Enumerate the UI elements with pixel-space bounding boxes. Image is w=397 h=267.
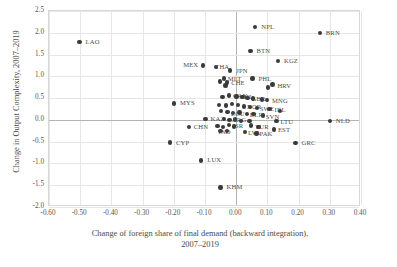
data-point [224, 103, 228, 107]
data-point-label: CYP [176, 139, 189, 146]
data-point-label: BTN [257, 47, 271, 54]
data-point-label: PAK [259, 130, 272, 137]
data-point [236, 103, 240, 107]
y-axis-zero-line [236, 11, 237, 205]
x-axis-title: Change of foreign share of final demand … [40, 228, 360, 250]
data-point [242, 104, 246, 108]
data-point-label: HRV [277, 82, 291, 89]
data-point-label: BRN [326, 29, 340, 36]
data-point [237, 110, 241, 114]
plot-area: LAONPLBRNBTNKGZMEXTHAJPNMLTPHLCHEHRVCANC… [48, 10, 360, 206]
data-point [265, 98, 269, 102]
gridline-horizontal [49, 98, 359, 99]
scatter-plot-figure: Change in Output Complexity, 2007–2019 2… [0, 0, 397, 267]
gridline-horizontal [49, 55, 359, 56]
data-point [267, 107, 271, 111]
data-point [248, 105, 252, 109]
x-tick-label: -0.10 [187, 209, 221, 217]
gridline-vertical [143, 11, 144, 205]
gridline-horizontal [49, 163, 359, 164]
gridline-horizontal [49, 207, 359, 208]
y-tick-label: 0.0 [18, 115, 44, 123]
y-tick-label: 1.0 [18, 71, 44, 79]
data-point [328, 119, 332, 123]
x-tick-label: -0.60 [31, 209, 65, 217]
data-point [245, 112, 249, 116]
data-point [249, 123, 253, 127]
y-tick-label: 0.5 [18, 93, 44, 101]
data-point [227, 93, 231, 97]
gridline-vertical [330, 11, 331, 205]
y-tick-label: 1.5 [18, 50, 44, 58]
data-point [261, 113, 265, 117]
data-point [274, 119, 278, 123]
data-point-label: EST [278, 126, 290, 133]
data-point [77, 40, 81, 44]
data-point [243, 130, 247, 134]
gridline-vertical [174, 11, 175, 205]
data-point [217, 103, 221, 107]
data-point-label: NLD [336, 117, 350, 124]
data-point-label: LTU [280, 118, 293, 125]
data-point-label: CHN [194, 123, 208, 130]
data-point [318, 31, 322, 35]
data-point-label: MYS [180, 99, 195, 106]
x-axis-title-line1: Change of foreign share of final demand … [40, 228, 360, 239]
data-point [187, 125, 191, 129]
data-point [260, 97, 264, 101]
data-point [222, 117, 226, 121]
x-tick-label: -0.30 [125, 209, 159, 217]
data-point [245, 96, 249, 100]
data-point [251, 96, 255, 100]
data-point [218, 79, 222, 83]
x-tick-label: 0.30 [312, 209, 346, 217]
data-point [227, 123, 231, 127]
data-point [266, 85, 270, 89]
y-tick-label: -1.0 [18, 158, 44, 166]
x-tick-label: 0.20 [281, 209, 315, 217]
x-tick-label: -0.50 [62, 209, 96, 217]
data-point [225, 110, 229, 114]
data-point [250, 76, 254, 80]
data-point-label: GRC [301, 139, 315, 146]
x-axis-title-line2: 2007–2019 [40, 239, 360, 250]
y-tick-label: -1.5 [18, 180, 44, 188]
gridline-horizontal [49, 33, 359, 34]
y-tick-label: 2.0 [18, 28, 44, 36]
data-point [223, 83, 227, 87]
data-point [219, 109, 223, 113]
gridline-vertical [49, 11, 50, 205]
data-point-label: PHL [258, 75, 271, 82]
data-point [276, 59, 280, 63]
gridline-vertical [299, 11, 300, 205]
data-point [168, 140, 172, 144]
data-point-label: CHE [231, 79, 245, 86]
x-tick-label: 0.00 [218, 209, 252, 217]
y-tick-label: 2.5 [18, 6, 44, 14]
data-point [234, 94, 238, 98]
data-point [201, 63, 205, 67]
y-tick-label: -0.5 [18, 137, 44, 145]
data-point [225, 129, 229, 133]
data-point [218, 185, 222, 189]
data-point-label: LUX [207, 156, 221, 163]
x-tick-label: 0.10 [249, 209, 283, 217]
x-tick-label: -0.40 [93, 209, 127, 217]
data-point [203, 117, 207, 121]
data-point-label: MEX [183, 61, 198, 68]
gridline-vertical [361, 11, 362, 205]
gridline-horizontal [49, 76, 359, 77]
gridline-horizontal [49, 185, 359, 186]
gridline-vertical [205, 11, 206, 205]
data-point [199, 158, 203, 162]
data-point [270, 82, 274, 86]
x-tick-label: -0.20 [156, 209, 190, 217]
data-point-label: MNG [272, 97, 288, 104]
data-point [254, 131, 258, 135]
data-point-label: NPL [261, 23, 274, 30]
data-point [230, 102, 234, 106]
data-point [253, 25, 257, 29]
data-point [232, 124, 236, 128]
gridline-vertical [111, 11, 112, 205]
data-point [248, 49, 252, 53]
